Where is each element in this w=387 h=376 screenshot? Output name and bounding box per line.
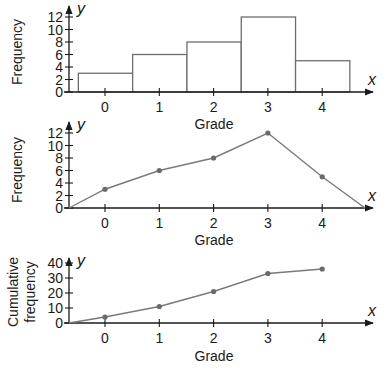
x-tick-label: 2 bbox=[210, 99, 218, 115]
x-tick-label: 2 bbox=[210, 215, 218, 231]
y-axis-title-line2: frequency bbox=[22, 261, 38, 322]
data-point bbox=[157, 304, 162, 309]
cumulative-frequency-line bbox=[69, 269, 322, 323]
x-tick-label: 2 bbox=[210, 330, 218, 346]
y-tick-label: 40 bbox=[47, 255, 63, 271]
y-tick-label: 30 bbox=[47, 270, 63, 286]
y-tick-label: 12 bbox=[47, 125, 63, 141]
y-axis-title-line1: Cumulative bbox=[5, 257, 21, 327]
histogram-bar bbox=[296, 61, 350, 92]
x-tick-label: 0 bbox=[101, 99, 109, 115]
x-tick-label: 1 bbox=[155, 215, 163, 231]
y-axis-title: Frequency bbox=[9, 137, 25, 203]
x-variable-label: x bbox=[367, 187, 377, 204]
data-point bbox=[320, 266, 325, 271]
x-tick-label: 1 bbox=[155, 330, 163, 346]
x-variable-label: x bbox=[367, 302, 377, 319]
x-tick-label: 1 bbox=[155, 99, 163, 115]
y-tick-label: 0 bbox=[55, 315, 63, 331]
x-tick-labels: 01234 bbox=[101, 330, 326, 346]
x-tick-label: 4 bbox=[318, 330, 326, 346]
data-point bbox=[265, 130, 270, 135]
x-axis-title: Grade bbox=[195, 116, 234, 132]
x-tick-label: 0 bbox=[101, 330, 109, 346]
data-point bbox=[157, 168, 162, 173]
y-axis-title: Frequency bbox=[9, 19, 25, 85]
histogram-chart: Frequency 024681012 y x 01234 Grade bbox=[9, 0, 377, 132]
histogram-bar bbox=[241, 17, 295, 92]
y-tick-label: 10 bbox=[47, 300, 63, 316]
data-point bbox=[102, 314, 107, 319]
charts-figure: Frequency 024681012 y x 01234 Grade Freq… bbox=[0, 0, 387, 376]
x-tick-labels: 01234 bbox=[101, 99, 326, 115]
x-tick-label: 3 bbox=[264, 330, 272, 346]
x-tick-label: 4 bbox=[318, 99, 326, 115]
data-point bbox=[211, 289, 216, 294]
data-points bbox=[102, 130, 324, 191]
x-tick-label: 3 bbox=[264, 215, 272, 231]
x-tick-labels: 01234 bbox=[101, 215, 326, 231]
cumulative-frequency-chart: Cumulative frequency 010203040 y x 01234… bbox=[5, 252, 377, 364]
x-axis-title: Grade bbox=[195, 232, 234, 248]
data-point bbox=[102, 187, 107, 192]
y-variable-label: y bbox=[76, 116, 86, 133]
frequency-polygon-line bbox=[69, 133, 365, 208]
y-variable-label: y bbox=[76, 0, 86, 17]
y-tick-label: 20 bbox=[47, 285, 63, 301]
x-variable-label: x bbox=[367, 71, 377, 88]
data-point bbox=[265, 271, 270, 276]
histogram-bar bbox=[133, 55, 187, 93]
frequency-polygon-chart: Frequency 024681012 y x 01234 Grade bbox=[9, 116, 377, 248]
histogram-bars bbox=[78, 17, 349, 92]
data-point bbox=[320, 174, 325, 179]
y-tick-labels: 024681012 bbox=[47, 9, 63, 100]
x-axis-title: Grade bbox=[195, 348, 234, 364]
x-tick-label: 0 bbox=[101, 215, 109, 231]
y-tick-labels: 024681012 bbox=[47, 125, 63, 216]
data-point bbox=[211, 155, 216, 160]
histogram-bar bbox=[187, 42, 241, 92]
y-tick-label: 12 bbox=[47, 9, 63, 25]
y-tick-labels: 010203040 bbox=[47, 255, 63, 331]
x-tick-label: 4 bbox=[318, 215, 326, 231]
x-tick-label: 3 bbox=[264, 99, 272, 115]
y-variable-label: y bbox=[76, 252, 86, 269]
